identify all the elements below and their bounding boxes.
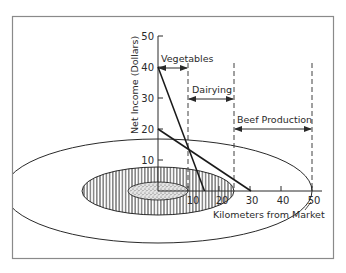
zone-label-beef: Beef Production: [237, 114, 312, 125]
von-thunen-diagram: 10 20 30 40 50 Net Income (Dollars) 10 2…: [0, 0, 346, 273]
y-tick-20: 20: [141, 124, 154, 135]
y-tick-30: 30: [141, 93, 154, 104]
x-tick-20: 20: [216, 195, 229, 206]
x-tick-40: 40: [277, 195, 290, 206]
y-tick-10: 10: [141, 155, 154, 166]
y-tick-40: 40: [141, 62, 154, 73]
zone-label-vegetables: Vegetables: [161, 53, 214, 64]
zone-label-dairying: Dairying: [192, 84, 232, 95]
x-tick-10: 10: [187, 195, 200, 206]
x-axis-title: Kilometers from Market: [213, 209, 325, 220]
y-axis-title: Net Income (Dollars): [129, 36, 140, 134]
zone-boundaries: [188, 63, 312, 191]
y-tick-50: 50: [141, 31, 154, 42]
x-tick-30: 30: [246, 195, 259, 206]
